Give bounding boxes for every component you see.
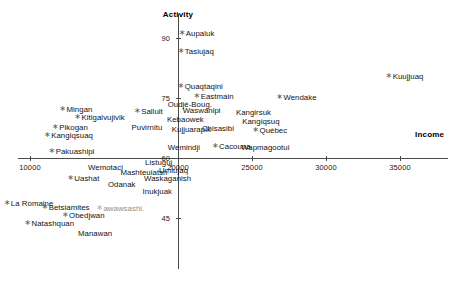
data-point-label: Kangiqsuaq (51, 132, 93, 140)
data-point-label: Kebaowek (167, 116, 204, 124)
y-axis-title: Activity (163, 10, 194, 19)
data-point-label: Odanak (108, 181, 136, 189)
data-point-label: Salluit (141, 108, 163, 116)
data-point: ∗Uashat (67, 175, 99, 183)
data-point: ∗Waswanipi (183, 107, 221, 115)
data-point-label: Natashquan (32, 220, 75, 228)
y-tick-mark (176, 98, 181, 99)
data-point: ∗Aupaluk (179, 30, 215, 38)
data-point-label: Wemindji (168, 144, 200, 152)
data-point: ∗Chisasibi (202, 125, 234, 133)
asterisk-marker-icon: ∗ (62, 211, 69, 219)
x-tick-mark (30, 156, 31, 161)
x-tick-mark (252, 156, 253, 161)
data-point-label: Kuujjuaq (393, 73, 424, 81)
data-point: ∗Kangirsuk (236, 109, 271, 117)
data-point-label: Wemotaci (88, 164, 123, 172)
asterisk-marker-icon: ∗ (134, 107, 141, 115)
asterisk-marker-icon: ∗ (193, 92, 200, 100)
asterisk-marker-icon: ∗ (212, 142, 219, 150)
asterisk-marker-icon: ∗ (177, 82, 184, 90)
data-point: ∗Wemindji (168, 144, 200, 152)
data-point: ∗Quaqtaqini (177, 83, 222, 91)
asterisk-marker-icon: ∗ (49, 147, 56, 155)
x-tick-label: 10000 (19, 163, 40, 172)
data-point: ∗Odanak (108, 181, 136, 189)
data-point: ∗Wendake (276, 94, 316, 102)
asterisk-marker-icon: ∗ (24, 219, 31, 227)
asterisk-marker-icon: ∗ (385, 72, 392, 80)
data-point: ∗Waskaganish (144, 175, 191, 183)
asterisk-marker-icon: ∗ (41, 203, 48, 211)
asterisk-marker-icon: ∗ (67, 174, 74, 182)
data-point-label: Waswanipi (183, 107, 221, 115)
x-tick-mark (326, 156, 327, 161)
data-point-label: Waskaganish (144, 175, 191, 183)
data-point: ∗Tasiujaq (178, 48, 214, 56)
data-point-label: Chisasibi (202, 125, 234, 133)
data-point-label: Kitigalvujivik (82, 114, 125, 122)
data-point: ∗Puvirnitu (132, 124, 163, 132)
data-point: ∗Wapmagootui (241, 144, 289, 152)
x-tick-label: 25000 (241, 163, 262, 172)
y-tick-mark (176, 218, 181, 219)
y-tick-mark (176, 38, 181, 39)
y-tick-mark (176, 158, 181, 159)
data-point-label: Puvirnitu (132, 124, 163, 132)
data-point: ∗Québec (252, 127, 287, 135)
data-point: ∗Natashquan (24, 220, 74, 228)
data-point: ∗Manawan (78, 230, 112, 238)
x-tick-label: 30000 (315, 163, 336, 172)
data-point-label: Québec (260, 127, 288, 135)
asterisk-marker-icon: ∗ (44, 131, 51, 139)
data-point-label: Aupaluk (186, 30, 215, 38)
data-point-label: Quaqtaqini (185, 83, 223, 91)
asterisk-marker-icon: ∗ (252, 126, 259, 134)
asterisk-marker-icon: ∗ (59, 105, 66, 113)
asterisk-marker-icon: ∗ (52, 123, 59, 131)
data-point: ∗Kuujjuaq (385, 73, 423, 81)
asterisk-marker-icon: ∗ (4, 199, 11, 207)
x-tick-mark (400, 156, 401, 161)
data-point: ∗Kebaowek (167, 116, 204, 124)
data-point: ∗Kangiqsuaq (44, 132, 93, 140)
data-point: ∗Salluit (134, 108, 163, 116)
y-tick-label: 90 (161, 34, 170, 43)
x-tick-label: 35000 (389, 163, 410, 172)
data-point-label: Uashat (74, 175, 99, 183)
data-point-label: Obedjwan (69, 212, 105, 220)
asterisk-marker-icon: ∗ (276, 93, 283, 101)
x-axis-title: Income (415, 130, 444, 139)
data-point-label: awawsashi. (103, 205, 144, 213)
data-point-label: Inukjuak (143, 188, 172, 196)
asterisk-marker-icon: ∗ (178, 47, 185, 55)
data-point-label: Pakuashipi (56, 148, 95, 156)
data-point: ∗Wemotaci (88, 164, 123, 172)
data-point-label: Tasiujaq (185, 48, 214, 56)
data-point-label: Manawan (78, 230, 112, 238)
asterisk-marker-icon: ∗ (74, 113, 81, 121)
data-point-label: Wapmagootui (241, 144, 289, 152)
data-point: ∗Pakuashipi (49, 148, 95, 156)
data-point: ∗Inukjuak (143, 188, 172, 196)
x-axis-line (18, 158, 448, 159)
data-point-label: Kangirsuk (236, 109, 271, 117)
data-point: ∗Kitigalvujivik (74, 114, 124, 122)
scatter-plot: Activity Income 100002000025000300003500… (0, 0, 471, 284)
y-tick-label: 45 (161, 214, 170, 223)
data-point-label: Wendake (283, 94, 316, 102)
asterisk-marker-icon: ∗ (179, 29, 186, 37)
